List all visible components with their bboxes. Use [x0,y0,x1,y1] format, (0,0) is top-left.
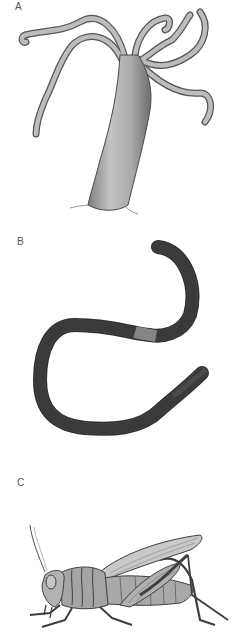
earthworm-illustration [0,225,233,455]
grasshopper-illustration [0,455,233,632]
hydra-illustration [0,0,233,225]
panel-b-earthworm: B [0,225,233,455]
panel-a-hydra: A [0,0,233,225]
panel-c-grasshopper: C [0,455,233,632]
